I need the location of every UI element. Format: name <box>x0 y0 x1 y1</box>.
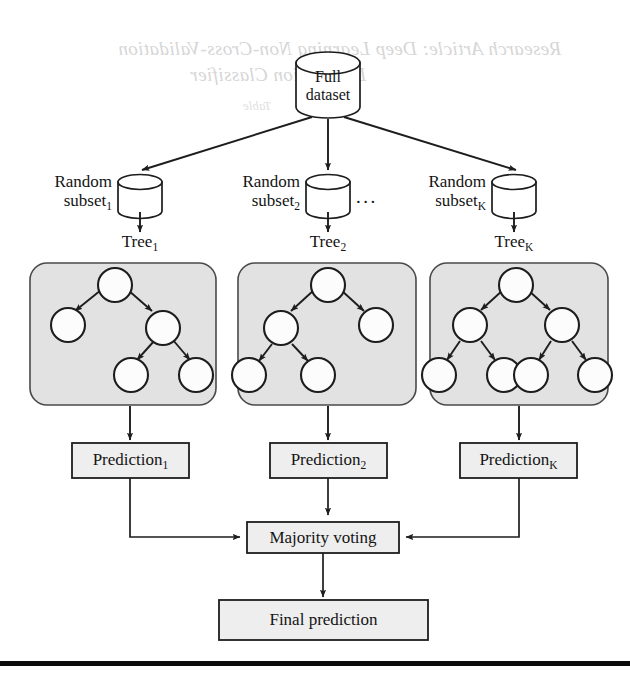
random-forest-diagram: Research Article: Deep Learning Non-Cros… <box>0 0 630 682</box>
tree-panel-1 <box>30 263 216 405</box>
full-dataset-cylinder <box>296 52 360 118</box>
edges-dataset-to-subsets <box>142 117 516 170</box>
edges-trees-to-predictions <box>130 406 519 440</box>
final-prediction-box <box>219 600 428 640</box>
tree-panel-k <box>422 263 612 405</box>
diagram-canvas <box>0 0 630 682</box>
tree-panel-2 <box>232 263 416 405</box>
bottom-rule <box>0 661 630 666</box>
subset-cylinder-1 <box>118 175 162 219</box>
subset-cylinder-k <box>492 175 536 219</box>
prediction-box-2 <box>270 443 387 478</box>
prediction-box-k <box>460 443 577 478</box>
subset-cylinder-2 <box>306 175 350 219</box>
prediction-box-1 <box>72 443 189 478</box>
majority-voting-box <box>247 522 399 553</box>
